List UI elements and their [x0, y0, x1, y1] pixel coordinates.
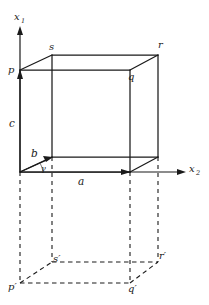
- edge-label-c: c: [9, 117, 15, 129]
- projection-vertex-labels: p′ s′ r′ q′: [8, 250, 167, 294]
- x2-axis-arrowhead: [177, 169, 186, 175]
- edge-r-q: [130, 55, 158, 70]
- edge-p-s: [20, 55, 52, 70]
- vertex-labels: p s r q: [8, 39, 164, 82]
- x2-axis-subscript: 2: [195, 169, 200, 177]
- edge-label-a: a: [78, 175, 84, 187]
- geometry-figure: x 1 x 2 p s r q p′ s′ r′ q′ a b c γ: [0, 0, 209, 305]
- x1-axis-label: x: [14, 11, 20, 22]
- projection-edge-left: [20, 262, 52, 283]
- unit-cell-diagram: x 1 x 2 p s r q p′ s′ r′ q′ a b c γ: [0, 0, 209, 305]
- vertex-label-p: p: [8, 64, 15, 75]
- x1-axis-arrowhead: [17, 26, 23, 35]
- vertex-label-s-prime: s′: [53, 253, 61, 264]
- vertex-label-q: q: [128, 71, 134, 82]
- angle-label-gamma: γ: [41, 164, 46, 173]
- unit-cell-solid: [20, 55, 158, 172]
- projection-outline: [20, 157, 158, 283]
- vertex-label-p-prime: p′: [8, 281, 17, 292]
- projection-edge-right: [130, 262, 158, 283]
- vertex-label-r: r: [158, 39, 164, 50]
- vertex-label-q-prime: q′: [128, 283, 137, 294]
- x2-axis-label: x: [189, 163, 195, 174]
- vertex-label-s: s: [49, 41, 54, 52]
- vertex-label-r-prime: r′: [159, 250, 167, 261]
- edge-label-b: b: [31, 147, 38, 159]
- x1-axis-subscript: 1: [21, 17, 25, 25]
- axis-labels: x 1 x 2: [14, 11, 200, 177]
- edge-bottom-right: [130, 157, 158, 172]
